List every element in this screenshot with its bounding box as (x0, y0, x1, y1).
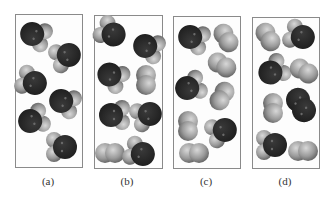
molecules-layer (0, 0, 336, 201)
hydrogen-molecule (204, 49, 240, 81)
water-molecule (202, 112, 241, 151)
water-molecule (45, 83, 84, 122)
water-molecule (253, 50, 295, 91)
hydrogen-molecule (288, 141, 318, 161)
hydrogen-molecule (252, 19, 284, 55)
hydrogen-molecule (263, 93, 283, 123)
hydrogen-molecule (206, 78, 238, 114)
water-molecule (46, 37, 85, 76)
water-molecule (280, 16, 319, 55)
water-molecule (171, 67, 210, 106)
water-molecule (120, 133, 159, 172)
water-molecule (127, 96, 166, 135)
water-molecule (174, 19, 213, 58)
water-molecule (92, 56, 134, 97)
water-molecule (12, 62, 51, 101)
water-molecule (46, 132, 77, 162)
hydrogen-molecule (95, 143, 125, 163)
water-molecule (129, 28, 168, 67)
hydrogen-molecule (210, 20, 242, 56)
hydrogen-molecule (286, 55, 322, 87)
hydrogen-molecule (178, 111, 198, 141)
oxygen-molecule (282, 83, 321, 126)
water-molecule (90, 12, 132, 53)
hydrogen-molecule (136, 65, 156, 95)
water-molecule (99, 100, 130, 130)
hydrogen-molecule (179, 143, 209, 163)
water-molecule (14, 100, 53, 139)
water-molecule (256, 130, 287, 160)
